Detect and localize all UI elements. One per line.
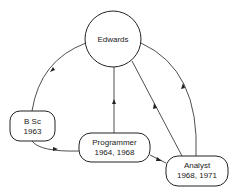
arrow-icon xyxy=(156,157,162,161)
analyst-label-years: 1968, 1971 xyxy=(166,171,228,180)
analyst-label-title: Analyst xyxy=(166,161,228,170)
programmer-label-title: Programmer xyxy=(79,138,150,147)
bsc-node xyxy=(10,111,55,141)
bsc-label-year: 1963 xyxy=(10,127,55,136)
arrow-icon xyxy=(50,67,55,72)
arrow-icon xyxy=(112,99,116,104)
edge-edwards-bsc xyxy=(32,43,86,111)
edwards-label: Edwards xyxy=(85,35,141,44)
programmer-label-years: 1964, 1968 xyxy=(79,148,150,157)
bsc-label-title: B Sc xyxy=(10,117,55,126)
